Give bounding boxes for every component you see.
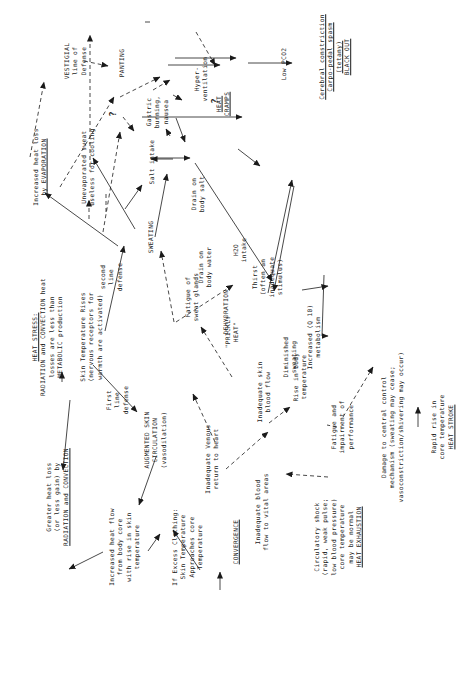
- node-line: Circulatory shock: [313, 498, 321, 575]
- node-line: Low PCO2: [280, 48, 288, 81]
- node-low-pco2: Low PCO2: [280, 48, 288, 81]
- node-line: core temperature: [338, 498, 346, 575]
- node-line: HEAT": [232, 316, 240, 349]
- node-line: low blood pressure): [330, 498, 338, 575]
- node-line: nausea: [162, 96, 170, 129]
- node-line: intake: [240, 238, 248, 262]
- node-line: HEAT STROKE: [447, 394, 455, 459]
- node-gastric-burning: Gastric burning, nausea: [145, 96, 170, 129]
- node-line: BLACK OUT: [343, 14, 351, 100]
- node-line: body salt: [198, 176, 206, 213]
- node-line: SWEATING: [147, 221, 155, 254]
- node-line: HEAT EXHAUSTION: [355, 498, 363, 575]
- node-panting: PANTING: [118, 49, 126, 78]
- node-line: (or less gain) by: [54, 448, 62, 546]
- node-first-line-defense: First line defense: [105, 386, 130, 415]
- node-increased-metabolism: Increased (Q 10) metabolism: [306, 304, 323, 369]
- node-cerebral-constriction: Cerebral constriction Carpo-pedal spasm …: [318, 14, 352, 100]
- heat-stress-line: losses are less than: [48, 278, 56, 396]
- node-line: Rise in body: [292, 353, 300, 402]
- node-line: by EVAPORATION: [40, 128, 48, 205]
- node-line: CRAMPS: [223, 92, 231, 116]
- node-line: Skin Temperature Rises: [79, 292, 87, 382]
- node-augmented-skin-circulation: AUGMENTED SKIN CIRCULATION (vasodilation…: [143, 411, 168, 468]
- node-line: Diminished: [282, 337, 290, 378]
- heat-stress-flowchart: HEAT STRESS: RADIATION and CONVECTION he…: [0, 0, 467, 677]
- node-fatigue-sweat-glands: Fatigue of sweat glands: [184, 273, 201, 322]
- heat-stress-line: METABOLIC production: [56, 278, 64, 396]
- node-line: Inadequate skin: [256, 361, 264, 422]
- node-inadequate-venous-return: Inadequate Venous return to heart: [204, 424, 221, 493]
- node-second-line-defense: second line defense: [99, 263, 124, 292]
- node-line: Approaches core: [188, 508, 196, 585]
- node-line: (nervous receptors for: [88, 292, 96, 382]
- node-line: ventilation: [201, 57, 209, 102]
- node-convergence: CONVERGENCE: [232, 520, 240, 565]
- node-inadequate-blood-flow: Inadequate blood flow to vital areas: [254, 473, 271, 550]
- node-line: PANTING: [118, 49, 126, 78]
- node-line: Gastric: [145, 96, 153, 129]
- node-line: defense: [122, 386, 130, 415]
- node-circulatory-shock: Circulatory shock (rapid, weak pulse; lo…: [313, 498, 363, 575]
- node-line: Fatigue and: [330, 401, 338, 454]
- node-line: mechanism (sweating may cease;: [389, 352, 397, 503]
- node-increased-evaporation: Increased heat loss by EVAPORATION: [32, 128, 49, 205]
- node-line: (rapid, weak pulse;: [321, 498, 329, 575]
- node-line: Skin Temperature: [180, 508, 188, 585]
- node-line: line: [114, 386, 122, 415]
- node-line: Carpo-pedal spasm: [327, 14, 335, 100]
- node-line: temperature: [133, 508, 141, 585]
- node-line: DEHYDRATION: [222, 290, 230, 335]
- node-line: If Excess Clothing:: [171, 508, 179, 585]
- node-line: Defense: [80, 43, 88, 80]
- node-line: vasoconstriction/shivering may occur): [397, 352, 405, 503]
- node-line: performance: [347, 401, 355, 454]
- node-greater-heat-loss: Greater heat loss (or less gain) by RADI…: [45, 448, 70, 546]
- node-line: CIRCULATION: [152, 411, 160, 468]
- node-line: CONVERGENCE: [232, 520, 240, 565]
- node-line: VESTIGIAL: [63, 43, 71, 80]
- node-line: Inadequate blood: [254, 473, 262, 550]
- node-vestigial-defense: VESTIGIAL line of Defense: [63, 43, 88, 80]
- node-line: Increased (Q 10): [306, 304, 314, 369]
- node-dehydration: DEHYDRATION: [222, 290, 230, 335]
- node-excess-clothing: If Excess Clothing: Skin Temperature App…: [171, 508, 205, 585]
- node-line: from body core: [117, 508, 125, 585]
- node-line: Increased heat loss: [32, 128, 40, 205]
- node-line: Damage to central control: [380, 352, 388, 503]
- node-line: Increased heat flow: [108, 508, 116, 585]
- node-line: Temperature: [196, 508, 204, 585]
- heat-stress-title: HEAT STRESS:: [31, 278, 39, 396]
- node-line: RADIATION and CONVECTION: [62, 448, 70, 546]
- node-drain-body-salt: Drain on body salt: [190, 176, 207, 213]
- node-line: Inadequate Venous: [204, 424, 212, 493]
- node-line: warmth are activated): [96, 292, 104, 382]
- node-line: inadequate: [268, 257, 276, 298]
- node-hyperventilation: Hyper- ventilation: [193, 57, 210, 102]
- node-heat-cramps: HEAT CRAMPS: [215, 92, 232, 116]
- node-line: return to heart: [212, 424, 220, 493]
- node-line: Fatigue of: [184, 273, 192, 322]
- node-inadequate-skin-blood-flow: Inadequate skin blood flow: [256, 361, 273, 422]
- node-heat-stress: HEAT STRESS: RADIATION and CONVECTION he…: [31, 278, 65, 396]
- node-line: line of: [72, 43, 80, 80]
- node-line: (vasodilation): [160, 411, 168, 468]
- node-thirst: Thirst (often an inadequate stimulus): [251, 257, 285, 298]
- node-line: Greater heat loss: [45, 448, 53, 546]
- node-line: defense: [116, 263, 124, 292]
- node-line: First: [105, 386, 113, 415]
- node-line: impairment of: [339, 401, 347, 454]
- node-sweating: SWEATING: [147, 221, 155, 254]
- node-line: Drain on: [190, 176, 198, 213]
- node-rapid-rise-heat-stroke: Rapid rise in core temperature HEAT STRO…: [430, 394, 455, 459]
- node-line: sweat glands: [192, 273, 200, 322]
- question-mark-unevaporated: ?: [108, 111, 118, 116]
- node-unevaporated-sweat: Unevaporated sweat useless for cooling: [80, 128, 97, 205]
- node-fatigue-performance: Fatigue and impairment of performance: [330, 401, 355, 454]
- node-line: Unevaporated sweat: [80, 128, 88, 205]
- node-line: HEAT: [215, 92, 223, 116]
- node-line: Salt intake: [148, 140, 156, 185]
- node-line: useless for cooling: [88, 128, 96, 205]
- node-damage-central-control: Damage to central control mechanism (swe…: [380, 352, 405, 503]
- node-increased-heat-flow: Increased heat flow from body core with …: [108, 508, 142, 585]
